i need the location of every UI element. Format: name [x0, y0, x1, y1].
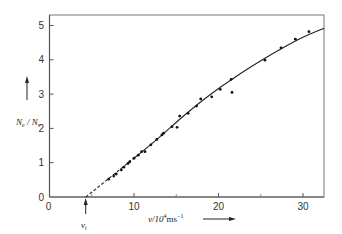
data-point [137, 154, 140, 157]
data-point [308, 30, 311, 33]
tick-labels: 0102030012345 [38, 20, 309, 212]
y-tick-label: 3 [38, 89, 44, 100]
y-tick-label: 0 [38, 192, 44, 203]
ticks [50, 26, 304, 198]
vt-annotation: vt [81, 198, 88, 231]
data-point [162, 132, 165, 135]
data-point [187, 112, 190, 115]
data-point [171, 125, 174, 128]
x-tick-label: 10 [128, 201, 140, 212]
arrow-right-icon [229, 217, 236, 221]
plot-frame [50, 15, 325, 197]
data-point [133, 157, 136, 160]
data-point [140, 150, 143, 153]
data-point [294, 38, 297, 41]
chart: 0102030012345 Ne / Nv v/104ms−1 vt [0, 0, 342, 234]
svg-text:v/104ms−1: v/104ms−1 [148, 213, 183, 224]
data-point [115, 173, 118, 176]
arrow-up-icon [84, 198, 88, 205]
data-point [120, 169, 123, 172]
data-point [112, 175, 115, 178]
data-point [144, 150, 147, 153]
data-point [195, 105, 198, 108]
y-tick-label: 4 [38, 54, 44, 65]
fit-curve [134, 28, 324, 158]
data-point [122, 166, 125, 169]
x-axis-label: v/104ms−1 [148, 213, 236, 224]
data-point [178, 115, 181, 118]
data-point [219, 88, 222, 91]
data-point [176, 126, 179, 129]
y-tick-label: 5 [38, 20, 44, 31]
data-point [210, 95, 213, 98]
data-point [128, 160, 131, 163]
data-point [231, 91, 234, 94]
arrow-up-icon [25, 76, 29, 83]
y-tick-label: 1 [38, 157, 44, 168]
data-point [264, 59, 267, 62]
y-axis-label: Ne / Nv [15, 76, 41, 128]
data-point [107, 178, 110, 181]
x-tick-label: 20 [213, 201, 225, 212]
data-point [199, 98, 202, 101]
data-point [230, 78, 233, 81]
data-point [280, 46, 283, 49]
x-tick-label: 0 [46, 201, 52, 212]
svg-text:vt: vt [81, 220, 87, 231]
extrapolation-line [86, 158, 134, 197]
data-point [155, 138, 158, 141]
data-points [107, 30, 310, 180]
svg-text:Ne / Nv: Ne / Nv [15, 117, 41, 128]
x-tick-label: 30 [297, 201, 309, 212]
data-point [150, 143, 153, 146]
